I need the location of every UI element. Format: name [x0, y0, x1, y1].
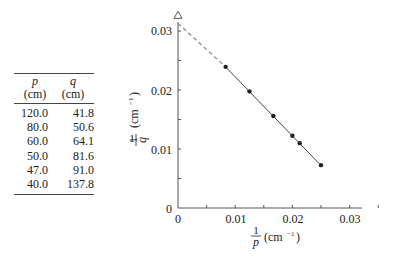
- chart: 0 0.01 0.02 0.03 0 0.01 0.02 0.03 1 p (c…: [0, 0, 396, 259]
- x-tick-label: 0.03: [340, 212, 361, 226]
- x-label-exp: −1: [287, 230, 295, 238]
- y-axis-label: 1 (cm −1 ): [127, 92, 141, 144]
- triangle-marker-icon: [174, 11, 182, 18]
- data-point: [290, 134, 294, 138]
- y-tick-label: 0.01: [151, 143, 172, 157]
- extrapolation-line: [178, 23, 226, 67]
- y-label-exp: −1: [127, 97, 135, 105]
- y-frac-den: q: [135, 137, 149, 143]
- y-tick-label: 0: [166, 202, 172, 216]
- data-point: [271, 114, 275, 118]
- x-tick-label: 0.01: [226, 212, 247, 226]
- data-point: [247, 89, 251, 93]
- y-label-unit: (cm: [127, 109, 141, 128]
- data-point: [223, 65, 227, 69]
- x-tick-label: 0.02: [283, 212, 304, 226]
- x-axis-label: 1 p (cm −1 ): [251, 224, 300, 249]
- y-tick-label: 0.03: [151, 24, 172, 38]
- x-label-unit: (cm: [264, 230, 283, 244]
- axes: [178, 22, 362, 208]
- x-tick-label: 0: [175, 212, 181, 226]
- plot-area: [174, 11, 323, 167]
- y-label-close: ): [127, 92, 141, 96]
- data-point: [298, 141, 302, 145]
- x-label-close: ): [296, 230, 300, 244]
- x-label-den: p: [252, 235, 259, 249]
- data-point: [319, 163, 323, 167]
- y-tick-label: 0.02: [151, 84, 172, 98]
